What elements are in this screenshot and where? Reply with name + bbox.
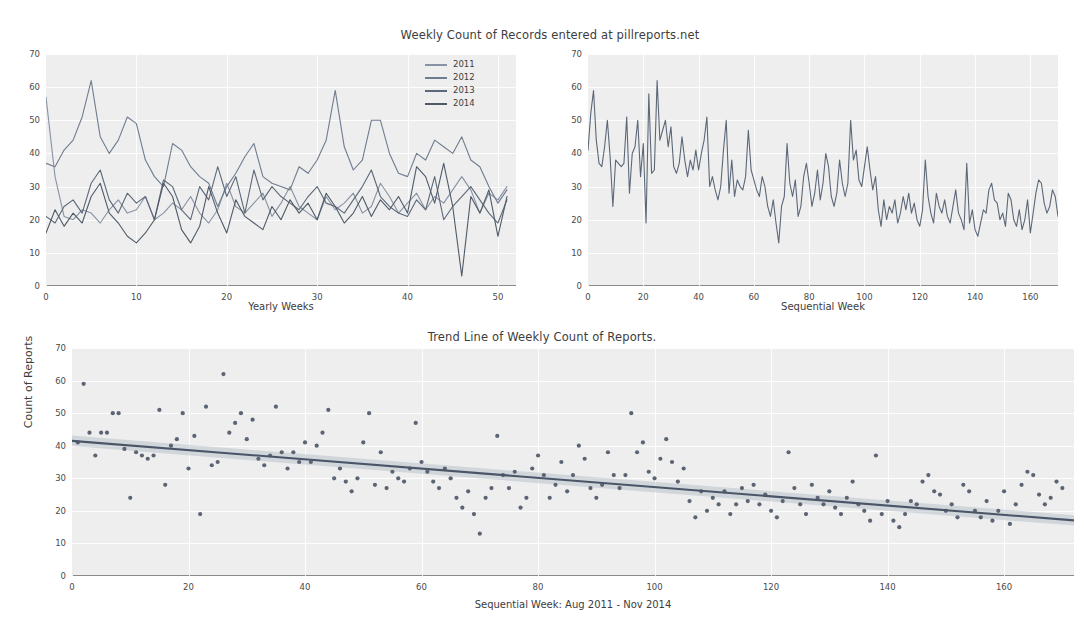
scatter-point	[361, 440, 365, 444]
scatter-point	[827, 489, 831, 493]
scatter-point	[472, 512, 476, 516]
x-tick-label: 100	[646, 582, 662, 592]
scatter-point	[751, 483, 755, 487]
scatter-point	[792, 486, 796, 490]
x-tick-label: 80	[533, 582, 544, 592]
scatter-point	[216, 460, 220, 464]
scatter-point	[903, 512, 907, 516]
scatter-point	[1054, 479, 1058, 483]
x-tick-label: 40	[402, 292, 413, 302]
scatter-point	[734, 502, 738, 506]
scatter-point	[221, 372, 225, 376]
scatter-point	[402, 479, 406, 483]
x-tick-label: 120	[912, 292, 928, 302]
scatter-point	[303, 440, 307, 444]
scatter-point	[82, 382, 86, 386]
scatter-point	[798, 502, 802, 506]
series-line-sequential	[588, 81, 1058, 243]
x-tick-label: 30	[312, 292, 323, 302]
scatter-point	[786, 450, 790, 454]
scatter-point	[606, 450, 610, 454]
y-tick-label: 0	[38, 571, 66, 581]
scatter-point	[111, 411, 115, 415]
scatter-point	[524, 496, 528, 500]
scatter-point	[280, 450, 284, 454]
x-tick-label: 0	[43, 292, 48, 302]
x-tick-label: 20	[183, 582, 194, 592]
scatter-point	[880, 512, 884, 516]
y-tick-label: 30	[38, 473, 66, 483]
y-tick-label: 30	[554, 182, 582, 192]
scatter-point	[128, 496, 132, 500]
legend-item-2011[interactable]: 2011	[425, 58, 475, 71]
scatter-point	[134, 450, 138, 454]
x-axis-label-trend: Sequential Week: Aug 2011 - Nov 2014	[72, 599, 1074, 610]
scatter-point	[757, 502, 761, 506]
scatter-point	[495, 434, 499, 438]
scatter-point	[990, 519, 994, 523]
scatter-point	[577, 444, 581, 448]
scatter-point	[320, 431, 324, 435]
y-tick-label: 60	[554, 82, 582, 92]
legend-item-2014[interactable]: 2014	[425, 97, 475, 110]
scatter-point	[961, 483, 965, 487]
scatter-point	[1019, 483, 1023, 487]
scatter-point	[915, 502, 919, 506]
legend-item-2013[interactable]: 2013	[425, 84, 475, 97]
scatter-point	[431, 479, 435, 483]
scatter-point	[641, 440, 645, 444]
scatter-point	[623, 473, 627, 477]
scatter-point	[478, 532, 482, 536]
legend-item-2012[interactable]: 2012	[425, 71, 475, 84]
scatter-point	[1002, 489, 1006, 493]
legend-label-2013: 2013	[453, 84, 475, 97]
scatter-point	[105, 431, 109, 435]
y-tick-label: 50	[12, 115, 40, 125]
scatter-point	[355, 476, 359, 480]
scatter-point	[163, 483, 167, 487]
trend-scatter-svg	[72, 348, 1074, 576]
scatter-point	[151, 453, 155, 457]
x-tick-label: 20	[638, 292, 649, 302]
scatter-point	[449, 476, 453, 480]
x-tick-label: 100	[856, 292, 872, 302]
panel-yearly-overlay: Weekly Count of Records entered at pillr…	[0, 0, 542, 320]
y-tick-label: 50	[38, 408, 66, 418]
scatter-point	[117, 411, 121, 415]
scatter-point	[1043, 502, 1047, 506]
scatter-point	[146, 457, 150, 461]
scatter-point	[379, 450, 383, 454]
scatter-point	[530, 466, 534, 470]
scatter-point	[868, 519, 872, 523]
scatter-point	[571, 473, 575, 477]
scatter-point	[250, 418, 254, 422]
sequential-series-svg	[588, 54, 1058, 286]
scatter-point	[693, 515, 697, 519]
scatter-point	[985, 499, 989, 503]
scatter-point	[821, 502, 825, 506]
scatter-point	[262, 463, 266, 467]
y-tick-label: 60	[12, 82, 40, 92]
scatter-point	[93, 453, 97, 457]
y-tick-label: 40	[38, 441, 66, 451]
scatter-point	[169, 444, 173, 448]
scatter-point	[87, 431, 91, 435]
scatter-point	[926, 473, 930, 477]
scatter-point	[728, 512, 732, 516]
scatter-point	[851, 479, 855, 483]
scatter-point	[367, 411, 371, 415]
legend-swatch-2014	[425, 103, 447, 105]
y-tick-label: 40	[554, 148, 582, 158]
legend-label-2011: 2011	[453, 58, 475, 71]
scatter-point	[682, 466, 686, 470]
scatter-point	[920, 479, 924, 483]
x-tick-label: 160	[1022, 292, 1038, 302]
trend-panel-title: Trend Line of Weekly Count of Reports.	[0, 330, 1084, 344]
scatter-point	[618, 486, 622, 490]
y-tick-label: 60	[38, 376, 66, 386]
scatter-point	[1008, 522, 1012, 526]
scatter-point	[396, 476, 400, 480]
scatter-point	[664, 437, 668, 441]
y-axis-label-trend: Count of Reports	[22, 302, 35, 462]
scatter-point	[373, 483, 377, 487]
